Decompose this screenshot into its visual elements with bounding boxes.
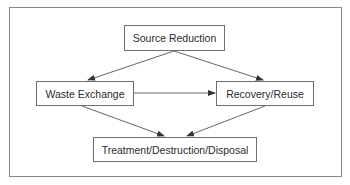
edge-source-to-recovery-reuse [174, 51, 263, 80]
node-label: Recovery/Reuse [226, 88, 304, 100]
node-recovery-reuse: Recovery/Reuse [216, 81, 314, 106]
node-treatment-destruction-disposal: Treatment/Destruction/Disposal [93, 137, 257, 162]
node-label: Waste Exchange [46, 88, 125, 100]
node-source-reduction: Source Reduction [124, 25, 225, 51]
edge-waste-exchange-to-treatment [82, 106, 164, 136]
node-label: Source Reduction [133, 32, 216, 44]
edge-recovery-reuse-to-treatment [187, 106, 265, 136]
node-label: Treatment/Destruction/Disposal [102, 144, 249, 156]
edge-source-to-waste-exchange [88, 51, 174, 80]
node-waste-exchange: Waste Exchange [36, 81, 134, 106]
